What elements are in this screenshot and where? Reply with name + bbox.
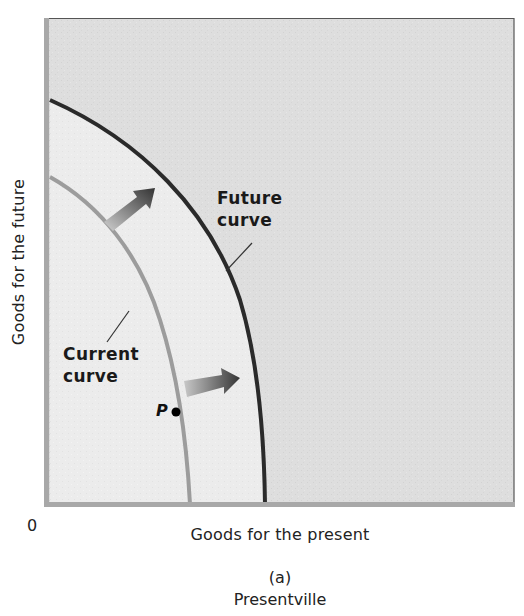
future-curve-label: Future curve [217, 187, 282, 231]
diagram-canvas [0, 0, 524, 616]
current-curve-label: Current curve [63, 343, 139, 387]
origin-label: 0 [27, 516, 37, 535]
panel-name: Presentville [234, 590, 327, 609]
x-axis [44, 502, 515, 507]
point-p-label: P [156, 401, 168, 420]
future-curve-label-line1: Future [217, 187, 282, 209]
point-p-marker [172, 408, 181, 417]
current-curve-label-line1: Current [63, 343, 139, 365]
ppf-diagram: Goods for the future 0 Goods for the pre… [0, 0, 524, 616]
y-axis [44, 18, 49, 507]
current-curve-label-line2: curve [63, 365, 139, 387]
y-axis-title: Goods for the future [9, 179, 28, 345]
future-curve-label-line2: curve [217, 209, 282, 231]
panel-letter: (a) [269, 568, 291, 587]
x-axis-title: Goods for the present [190, 525, 369, 544]
